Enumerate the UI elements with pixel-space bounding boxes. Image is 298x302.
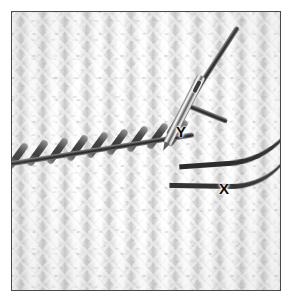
label-x: X <box>219 181 229 196</box>
figure-frame: Y X <box>11 11 281 291</box>
label-y: Y <box>176 124 186 139</box>
knitting-photograph: Y X <box>12 12 280 290</box>
